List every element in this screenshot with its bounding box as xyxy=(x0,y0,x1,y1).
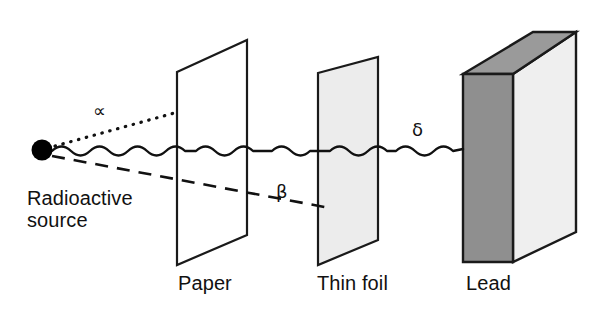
ray-delta-path xyxy=(52,147,463,156)
barrier-label-lead: Lead xyxy=(466,272,511,294)
barrier-paper xyxy=(177,40,247,265)
barrier-thin-foil xyxy=(318,57,378,265)
ray-label-alpha: ∝ xyxy=(93,101,106,121)
ray-label-beta: β xyxy=(276,182,288,202)
radiation-penetration-diagram xyxy=(0,0,615,319)
radioactive-source-label-line1: Radioactive xyxy=(27,187,133,209)
ray-alpha-path xyxy=(55,112,178,146)
ray-label-delta: δ xyxy=(412,120,423,140)
barrier-label-thin-foil: Thin foil xyxy=(317,272,388,294)
radioactive-source-label-line2: source xyxy=(27,209,88,231)
barrier-label-paper: Paper xyxy=(178,272,232,294)
radioactive-source-dot xyxy=(32,140,53,161)
barrier-lead-front-face xyxy=(463,74,513,262)
radioactive-source-label: Radioactivesource xyxy=(27,187,133,232)
